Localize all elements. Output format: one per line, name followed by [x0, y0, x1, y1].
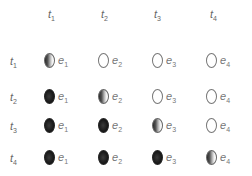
- filled-circle-icon: [44, 118, 55, 133]
- cell-t3-e4: e4: [206, 117, 246, 135]
- row-label-t2: t2: [10, 92, 17, 105]
- element-label: e3: [166, 55, 176, 68]
- column-header-t3: t3: [154, 9, 161, 22]
- element-label: e1: [58, 55, 68, 68]
- cell-t2-e2: e2: [98, 88, 138, 106]
- filled-circle-icon: [44, 89, 55, 104]
- element-label: e3: [166, 91, 176, 104]
- element-label-sub: 4: [226, 97, 230, 104]
- cell-t4-e1: e1: [44, 149, 84, 167]
- element-label-sub: 4: [226, 126, 230, 133]
- cell-t1-e4: e4: [206, 52, 246, 70]
- element-label-sub: 4: [226, 158, 230, 165]
- empty-circle-icon: [206, 89, 217, 104]
- element-label: e2: [112, 120, 122, 133]
- cell-t3-e1: e1: [44, 117, 84, 135]
- element-label: e3: [166, 152, 176, 165]
- element-label-sub: 4: [226, 61, 230, 68]
- element-label: e2: [112, 91, 122, 104]
- row-label-sub: 1: [13, 62, 17, 69]
- row-label-sub: 2: [13, 98, 17, 105]
- half-circle-icon: [152, 118, 163, 133]
- element-label-sub: 1: [64, 97, 68, 104]
- row-label-t1: t1: [10, 56, 17, 69]
- element-label: e2: [112, 55, 122, 68]
- cell-t2-e3: e3: [152, 88, 192, 106]
- empty-circle-icon: [152, 89, 163, 104]
- cell-t4-e2: e2: [98, 149, 138, 167]
- empty-circle-icon: [152, 53, 163, 68]
- filled-circle-icon: [98, 118, 109, 133]
- element-label-sub: 3: [172, 158, 176, 165]
- row-label-t3: t3: [10, 121, 17, 134]
- column-header-t2: t2: [101, 9, 108, 22]
- row-label-sub: 4: [13, 159, 17, 166]
- element-label: e3: [166, 120, 176, 133]
- cell-t4-e4: e4: [206, 149, 246, 167]
- element-label: e4: [220, 91, 230, 104]
- cell-t1-e3: e3: [152, 52, 192, 70]
- filled-circle-icon: [98, 150, 109, 165]
- cell-t2-e1: e1: [44, 88, 84, 106]
- column-header-t4: t4: [210, 9, 217, 22]
- element-label: e4: [220, 152, 230, 165]
- cell-t3-e2: e2: [98, 117, 138, 135]
- element-label-sub: 1: [64, 61, 68, 68]
- row-label-sub: 3: [13, 127, 17, 134]
- element-label-sub: 1: [64, 158, 68, 165]
- cell-t3-e3: e3: [152, 117, 192, 135]
- empty-circle-icon: [206, 118, 217, 133]
- element-label-sub: 3: [172, 97, 176, 104]
- filled-circle-icon: [44, 150, 55, 165]
- element-label-sub: 1: [64, 126, 68, 133]
- empty-circle-icon: [98, 53, 109, 68]
- element-label-sub: 2: [118, 158, 122, 165]
- half-circle-icon: [98, 89, 109, 104]
- cell-t1-e2: e2: [98, 52, 138, 70]
- element-label-sub: 2: [118, 97, 122, 104]
- element-label: e1: [58, 91, 68, 104]
- cell-t4-e3: e3: [152, 149, 192, 167]
- column-header-sub: 4: [213, 15, 217, 22]
- element-label: e4: [220, 55, 230, 68]
- cell-t2-e4: e4: [206, 88, 246, 106]
- column-header-t1: t1: [48, 9, 55, 22]
- cell-t1-e1: e1: [44, 52, 84, 70]
- half-circle-icon: [206, 150, 217, 165]
- element-label-sub: 3: [172, 61, 176, 68]
- filled-circle-icon: [152, 150, 163, 165]
- element-label-sub: 2: [118, 126, 122, 133]
- element-label-sub: 3: [172, 126, 176, 133]
- element-label: e1: [58, 120, 68, 133]
- empty-circle-icon: [206, 53, 217, 68]
- element-label: e1: [58, 152, 68, 165]
- element-label-sub: 2: [118, 61, 122, 68]
- column-header-sub: 2: [104, 15, 108, 22]
- half-circle-icon: [44, 53, 55, 68]
- column-header-sub: 3: [157, 15, 161, 22]
- column-header-sub: 1: [51, 15, 55, 22]
- row-label-t4: t4: [10, 153, 17, 166]
- element-label: e4: [220, 120, 230, 133]
- element-label: e2: [112, 152, 122, 165]
